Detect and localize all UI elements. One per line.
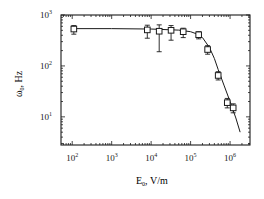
data-point <box>205 46 211 55</box>
x-axis-label: E0, V/m <box>136 175 168 187</box>
open-square-marker <box>145 27 151 33</box>
x-tick-label: 103 <box>106 152 118 163</box>
open-square-marker <box>224 100 230 106</box>
open-square-marker <box>168 28 174 34</box>
data-point <box>224 98 230 107</box>
y-tick-label: 101 <box>40 111 52 122</box>
open-square-marker <box>215 73 221 79</box>
chart: 102103104105106 101102103 E0, V/m ω0, Hz <box>0 0 264 199</box>
fit-curve <box>74 29 240 133</box>
data-point <box>71 26 77 35</box>
open-square-marker <box>180 29 186 35</box>
y-tick-labels: 101102103 <box>40 9 52 122</box>
data-point <box>168 26 174 41</box>
x-tick-label: 102 <box>66 152 78 163</box>
data-point <box>156 25 162 52</box>
x-tick-labels: 102103104105106 <box>66 152 236 163</box>
y-tick-label: 102 <box>40 60 52 71</box>
x-tick-label: 106 <box>224 152 236 163</box>
open-square-marker <box>230 105 236 111</box>
open-square-marker <box>71 26 77 32</box>
x-tick-label: 104 <box>145 152 157 163</box>
open-square-marker <box>205 47 211 53</box>
open-square-marker <box>196 32 202 38</box>
open-square-marker <box>156 28 162 34</box>
data-point <box>196 32 202 39</box>
x-tick-label: 105 <box>185 152 197 163</box>
y-tick-label: 103 <box>40 9 52 20</box>
data-points <box>71 25 236 113</box>
data-point <box>215 72 221 80</box>
data-point <box>145 25 151 38</box>
data-point <box>230 104 236 113</box>
y-axis-label: ω0, Hz <box>13 70 25 97</box>
data-point <box>180 28 186 37</box>
